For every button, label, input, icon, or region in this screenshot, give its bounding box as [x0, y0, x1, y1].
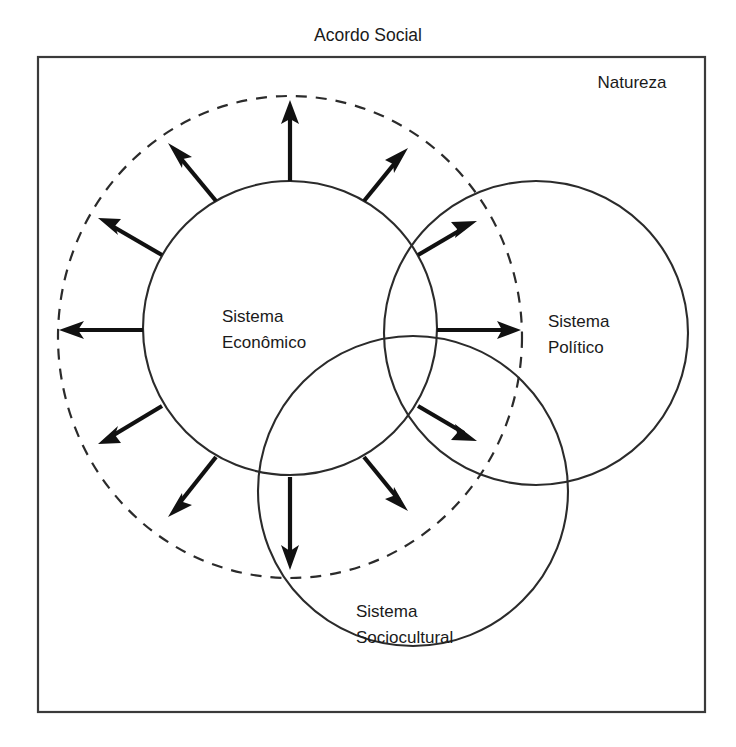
arrow-left-down-60 — [98, 406, 162, 444]
label-politico-line2: Político — [548, 338, 604, 357]
circle-sistema-sociocultural — [258, 336, 568, 646]
arrow-right-down-60 — [418, 406, 477, 441]
page-title: Acordo Social — [314, 25, 422, 45]
label-economico-line2: Econômico — [222, 333, 306, 352]
frame-label-natureza: Natureza — [598, 73, 668, 92]
label-sistema-economico: Sistema Econômico — [222, 307, 306, 352]
arrow-up-right-30 — [364, 148, 408, 201]
arrow-down — [281, 477, 299, 570]
label-sistema-sociocultural: Sistema Sociocultural — [356, 602, 453, 647]
label-sociocultural-line2: Sociocultural — [356, 628, 453, 647]
arrow-left-up-60 — [98, 218, 162, 255]
arrow-down-left-30 — [168, 457, 216, 517]
circle-sistema-economico — [143, 181, 437, 475]
arrow-left — [59, 321, 143, 339]
arrow-up-left-30 — [168, 143, 216, 201]
arrow-up — [281, 100, 299, 181]
arrow-right — [437, 321, 521, 339]
systems-venn-diagram: Acordo Social Natureza — [0, 0, 736, 747]
label-economico-line1: Sistema — [222, 307, 284, 326]
arrow-down-right-30 — [364, 457, 408, 511]
label-sociocultural-line1: Sistema — [356, 602, 418, 621]
circle-sistema-politico — [384, 181, 688, 485]
diagram-root: Acordo Social Natureza — [0, 0, 736, 747]
label-sistema-politico: Sistema Político — [548, 312, 610, 357]
label-politico-line1: Sistema — [548, 312, 610, 331]
